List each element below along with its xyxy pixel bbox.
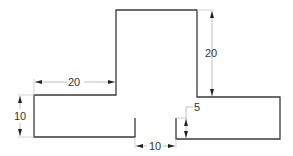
dimension-left-step-width: 20	[34, 76, 115, 95]
arrow-down-icon	[18, 129, 22, 136]
dimension-label-gap-width: 10	[149, 140, 161, 152]
dimension-label-left-height: 10	[14, 110, 26, 122]
dimension-left-height: 10	[14, 95, 34, 137]
dimension-right-offset: 5	[176, 101, 200, 138]
technical-drawing: 20 20 10 10 5	[0, 0, 293, 156]
arrow-down-icon	[210, 89, 214, 96]
arrow-up-icon	[184, 119, 188, 126]
arrow-up-icon	[210, 11, 214, 18]
dimension-tower-height: 20	[197, 10, 217, 96]
dimension-gap-width: 10	[135, 137, 176, 152]
arrow-down-icon	[184, 131, 188, 138]
shape-outline-left	[34, 10, 280, 139]
arrow-right-icon	[108, 80, 115, 84]
dimension-label-tower-height: 20	[205, 47, 217, 59]
arrow-left-icon	[136, 144, 143, 148]
dimension-label-left-step-width: 20	[68, 76, 80, 88]
arrow-up-icon	[18, 96, 22, 103]
arrow-left-icon	[35, 80, 42, 84]
arrow-right-icon	[168, 144, 175, 148]
dimension-label-right-offset: 5	[194, 101, 200, 113]
